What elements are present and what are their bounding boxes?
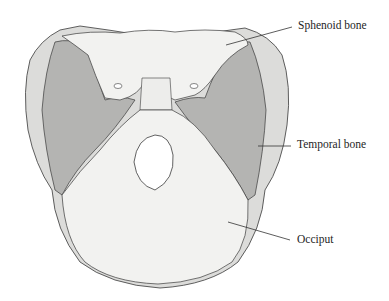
label-temporal-bone: Temporal bone [297,138,366,150]
basilar-part [140,78,172,110]
label-sphenoid-bone: Sphenoid bone [298,19,367,31]
foramen-left [114,84,122,89]
foramen-right [190,84,198,89]
skull-base-diagram [0,0,389,301]
label-occiput: Occiput [297,233,333,245]
